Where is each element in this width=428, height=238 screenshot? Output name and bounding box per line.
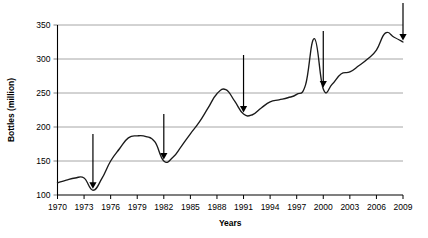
- x-axis-title: Years: [219, 218, 242, 228]
- x-tick-label: 1982: [154, 202, 173, 212]
- y-tick-label: 150: [36, 156, 50, 166]
- line-chart: 100150200250300350 197019731976197919821…: [0, 0, 428, 238]
- arrow-head: [399, 34, 406, 41]
- x-axis-tick-labels: 1970197319761979198219851988199119941997…: [48, 202, 413, 212]
- y-tick-label: 350: [36, 20, 50, 30]
- y-tick-label: 300: [36, 54, 50, 64]
- y-tick-label: 100: [36, 190, 50, 200]
- x-tick-label: 1988: [208, 202, 227, 212]
- x-tick-label: 2003: [340, 202, 359, 212]
- arrow-head: [320, 81, 327, 88]
- y-axis-title: Bottles (million): [6, 78, 16, 142]
- x-tick-label: 1991: [234, 202, 253, 212]
- y-tick-label: 200: [36, 122, 50, 132]
- annotation-arrow-1991: [240, 55, 247, 113]
- x-tick-label: 2009: [394, 202, 413, 212]
- annotation-arrow-2009: [399, 3, 406, 41]
- data-series-line: [58, 32, 404, 190]
- y-axis-tick-labels: 100150200250300350: [36, 20, 50, 200]
- annotation-arrow-1982: [160, 114, 167, 160]
- chart-container: 100150200250300350 197019731976197919821…: [0, 0, 428, 238]
- y-tick-label: 250: [36, 88, 50, 98]
- x-tick-label: 1997: [287, 202, 306, 212]
- x-tick-label: 1976: [101, 202, 120, 212]
- x-tick-label: 1985: [181, 202, 200, 212]
- x-tick-label: 2000: [314, 202, 333, 212]
- x-axis-ticks: [58, 195, 404, 199]
- y-axis-ticks: [54, 25, 58, 195]
- x-tick-label: 1973: [75, 202, 94, 212]
- x-tick-label: 1979: [128, 202, 147, 212]
- x-tick-label: 1994: [261, 202, 280, 212]
- x-tick-label: 1970: [48, 202, 67, 212]
- x-tick-label: 2006: [367, 202, 386, 212]
